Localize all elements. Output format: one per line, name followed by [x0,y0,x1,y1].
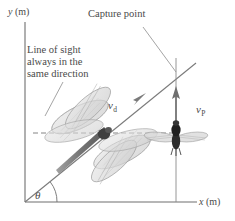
line-of-sight-label: Line of sight always in the same directi… [27,44,89,79]
line-of-sight-label-line-1: Line of sight [27,44,89,56]
vd-arrowhead [133,93,146,105]
prey-velocity-subscript: P [201,109,205,118]
dragonfly-velocity-label: vd [108,99,117,111]
prey-wing-right [176,130,209,143]
x-axis-symbol: x [199,196,203,207]
x-axis-label: x (m) [199,196,220,207]
line-of-sight-label-line-3: same direction [27,68,89,80]
line-of-sight-leader-line [45,82,63,116]
dragonfly-velocity-subscript: d [113,105,117,114]
line-of-sight-label-line-2: always in the [27,56,89,68]
y-axis-symbol: y [8,6,12,17]
angle-theta-label: θ [35,189,40,201]
prey-velocity-label: vP [196,103,205,115]
dragonfly-head [105,127,112,133]
y-axis-unit: (m) [15,6,29,17]
x-axis-unit: (m) [206,196,220,207]
capture-point-label: Capture point [88,8,145,20]
y-axis-label: y (m) [8,6,29,17]
angle-arc [50,182,57,202]
prey-legs [171,148,181,156]
prey-fly [144,120,209,156]
prey-head [173,120,179,126]
dragonfly-interception-diagram: y (m) x (m) Capture point Line of sight … [0,0,235,221]
capture-point-leader-line [143,27,176,72]
